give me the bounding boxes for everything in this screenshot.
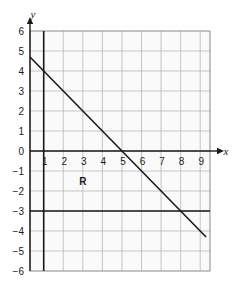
y-tick-label: 2	[18, 106, 24, 117]
y-tick-label: −2	[13, 186, 25, 197]
x-tick-label: 8	[179, 156, 185, 167]
y-tick-label: 5	[18, 46, 24, 57]
y-tick-label: −1	[13, 166, 25, 177]
x-tick-label: 1	[42, 156, 48, 167]
annotations-group: R	[79, 176, 87, 187]
coordinate-plane-svg: 1234567896543210−1−2−3−4−5−6 R y x	[0, 0, 233, 282]
y-tick-label: 3	[18, 86, 24, 97]
coordinate-graph-figure: 1234567896543210−1−2−3−4−5−6 R y x	[0, 0, 233, 282]
x-tick-label: 2	[61, 156, 67, 167]
y-tick-label: −6	[13, 266, 25, 277]
y-tick-label: −5	[13, 246, 25, 257]
y-tick-label: −4	[13, 226, 25, 237]
region-label-r: R	[79, 176, 87, 187]
y-tick-label: 4	[18, 66, 24, 77]
x-tick-label: 6	[140, 156, 146, 167]
y-tick-label: 6	[18, 26, 24, 37]
x-tick-label: 9	[198, 156, 204, 167]
x-axis-label: x	[223, 145, 229, 157]
y-tick-label: 0	[18, 146, 24, 157]
x-tick-label: 7	[159, 156, 165, 167]
x-tick-label: 5	[120, 156, 126, 167]
x-tick-label: 3	[81, 156, 87, 167]
y-tick-label: 1	[18, 126, 24, 137]
x-tick-label: 4	[101, 156, 107, 167]
y-tick-label: −3	[13, 206, 25, 217]
y-axis-label: y	[30, 8, 36, 20]
